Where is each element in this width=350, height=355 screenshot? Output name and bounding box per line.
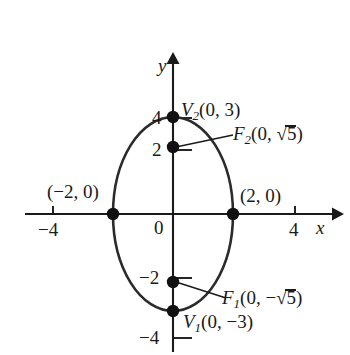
point-focus-top (167, 141, 179, 153)
focus-bottom-label: F1(0, −√5) (222, 288, 302, 310)
x-intercept-left-label: (−2, 0) (47, 182, 99, 201)
x-tick-label-neg4: −4 (38, 220, 58, 239)
radical-vinculum (285, 289, 296, 291)
x-intercept-right-label: (2, 0) (240, 186, 281, 205)
focus-top-leader-line (176, 135, 233, 147)
point-vertex-bottom (167, 305, 179, 317)
radical-vinculum (285, 125, 296, 127)
focus-bottom-radical: √5 (276, 288, 296, 307)
focus-top-coords-open: (0, (251, 123, 276, 144)
point-covertex-right (227, 208, 239, 220)
y-tick-label-neg4: −4 (139, 328, 159, 347)
vertex-top-label: V2(0, 3) (181, 100, 240, 122)
x-axis-label: x (316, 218, 324, 237)
focus-top-name: F (233, 123, 245, 144)
vertex-bottom-coords: (0, −3) (201, 311, 253, 332)
focus-bottom-coords-close: ) (296, 287, 302, 308)
y-axis-label: y (158, 56, 166, 75)
y-tick-label-4: 4 (152, 108, 162, 127)
vertex-top-coords: (0, 3) (199, 99, 240, 120)
ellipse-graph-figure: y x 0 −4 4 4 2 −2 −4 V2(0, 3) F2(0, √5) … (0, 0, 350, 355)
vertex-top-name: V (181, 99, 193, 120)
x-tick-label-4: 4 (289, 220, 299, 239)
focus-bottom-leader-line (176, 282, 226, 298)
focus-top-radical: √5 (276, 124, 296, 143)
y-tick-label-neg2: −2 (139, 268, 159, 287)
y-tick-label-2: 2 (152, 140, 162, 159)
focus-top-label: F2(0, √5) (233, 124, 303, 146)
focus-bottom-name: F (222, 287, 234, 308)
focus-bottom-coords-open: (0, − (240, 287, 276, 308)
point-covertex-left (107, 208, 119, 220)
origin-label: 0 (154, 218, 164, 237)
vertex-bottom-name: V (183, 311, 195, 332)
focus-top-coords-close: ) (296, 123, 302, 144)
vertex-bottom-label: V1(0, −3) (183, 312, 253, 334)
point-vertex-top (167, 111, 179, 123)
point-focus-bottom (167, 276, 179, 288)
